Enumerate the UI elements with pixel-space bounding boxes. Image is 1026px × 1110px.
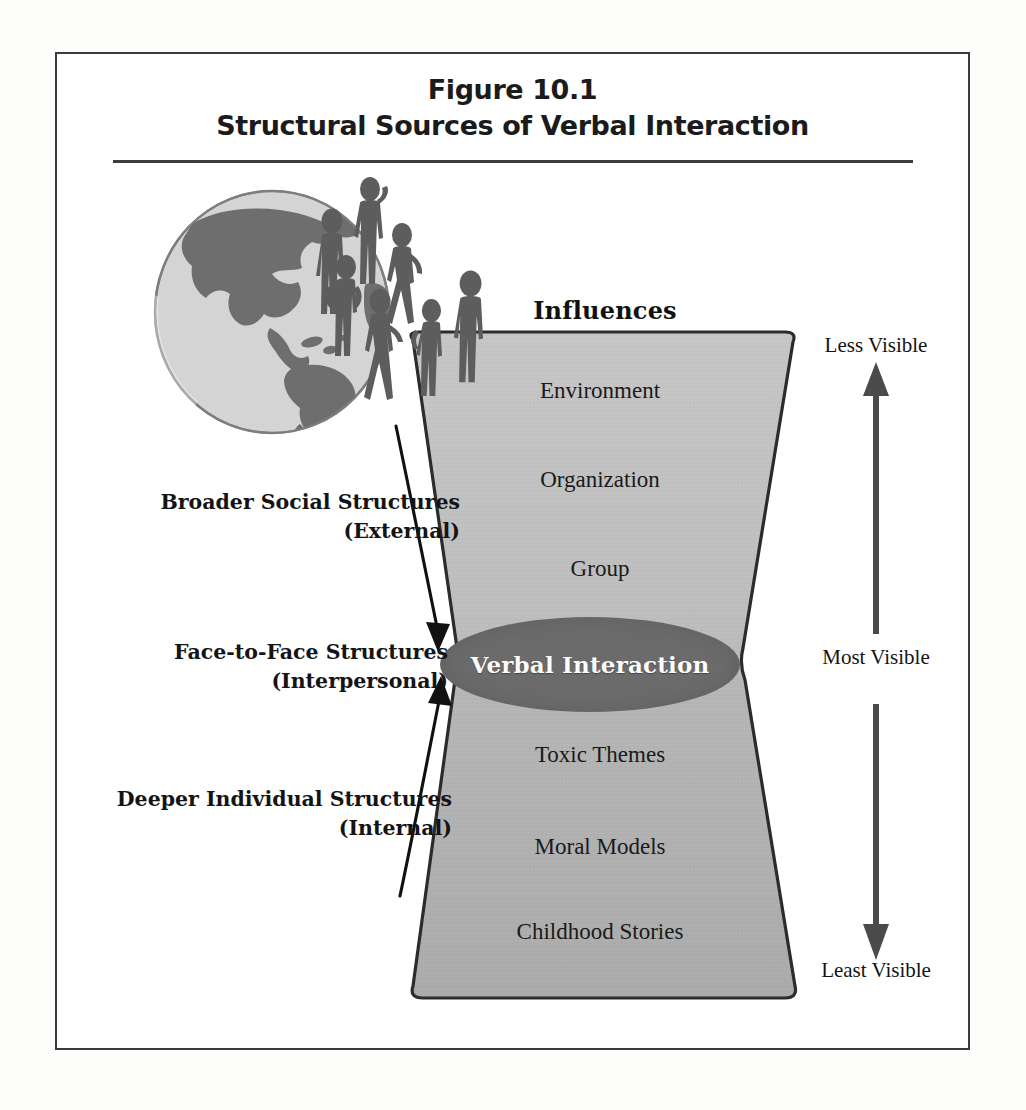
- structure-qualifier-interpersonal: (Interpersonal): [100, 667, 448, 696]
- structure-name-face-to-face: Face-to-Face Structures: [174, 640, 448, 664]
- funnel-label-childhood-stories: Childhood Stories: [517, 919, 684, 945]
- funnel-label-toxic-themes: Toxic Themes: [535, 742, 665, 768]
- influences-heading: Influences: [500, 296, 710, 325]
- funnel-label-environment: Environment: [540, 378, 660, 404]
- visibility-label-least: Least Visible: [821, 958, 931, 983]
- figure-title: Structural Sources of Verbal Interaction: [55, 108, 970, 144]
- people-crowd-icon: [280, 172, 520, 437]
- funnel-label-organization: Organization: [540, 467, 660, 493]
- funnel-label-moral-models: Moral Models: [535, 834, 666, 860]
- structure-label-deeper-individual: Deeper Individual Structures (Internal): [80, 785, 452, 843]
- structure-qualifier-external: (External): [120, 517, 460, 546]
- title-divider-rule: [113, 160, 913, 163]
- visibility-label-most: Most Visible: [822, 645, 929, 670]
- structure-label-face-to-face: Face-to-Face Structures (Interpersonal): [100, 638, 448, 696]
- verbal-interaction-ellipse: Verbal Interaction: [440, 617, 740, 712]
- structure-label-broader-social: Broader Social Structures (External): [120, 488, 460, 546]
- visibility-label-less: Less Visible: [825, 333, 928, 358]
- funnel-label-group: Group: [571, 556, 630, 582]
- figure-title-block: Figure 10.1 Structural Sources of Verbal…: [55, 72, 970, 143]
- figure-number: Figure 10.1: [55, 72, 970, 108]
- structure-qualifier-internal: (Internal): [80, 814, 452, 843]
- structure-name-broader-social: Broader Social Structures: [160, 490, 460, 514]
- verbal-interaction-label: Verbal Interaction: [470, 651, 709, 678]
- structure-name-deeper-individual: Deeper Individual Structures: [117, 787, 452, 811]
